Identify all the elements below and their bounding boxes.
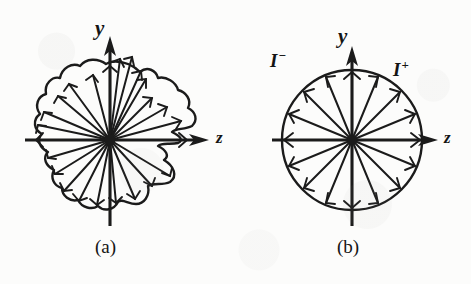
panel-b-y-axis-label: y: [338, 26, 347, 47]
figure-canvas: [0, 0, 471, 284]
panel-b-origin-hub: [347, 135, 356, 144]
panel-a-origin-hub: [105, 135, 116, 146]
current-plus-label: I+: [393, 58, 409, 79]
panel-a-caption: (a): [95, 237, 116, 256]
panel-a-z-axis-label: z: [216, 129, 223, 146]
panel-a-y-axis-label: y: [95, 18, 104, 39]
panel-b-caption: (b): [337, 237, 359, 256]
current-minus-label: I−: [270, 49, 286, 70]
current-minus-superscript: −: [278, 48, 285, 63]
panel-b-z-axis-label: z: [444, 129, 451, 146]
figure-root: y z (a) y z (b) I− I+: [0, 0, 471, 284]
current-minus-symbol: I: [270, 50, 277, 71]
current-plus-superscript: +: [401, 57, 408, 72]
panel-b: [272, 46, 438, 226]
panel-a: [25, 36, 209, 226]
current-plus-symbol: I: [393, 59, 400, 80]
